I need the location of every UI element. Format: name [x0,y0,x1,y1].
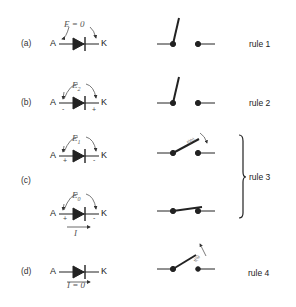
brace [239,135,246,218]
diode-symbol-b [59,96,99,110]
switch-d [157,244,215,272]
diagram-canvas: t(th) t(q) [0,0,296,307]
diode-symbol-a [59,37,99,51]
switch-a [157,18,215,47]
switch-c2 [157,207,215,214]
switch-annotation-d: t(q) [193,254,201,263]
voltage-arcs [62,27,96,210]
diode-symbol-c2 [59,207,99,221]
switch-b [157,77,215,106]
diode-symbol-d [59,265,99,279]
switch-c1 [157,133,215,156]
diode-symbol-c1 [59,149,99,163]
